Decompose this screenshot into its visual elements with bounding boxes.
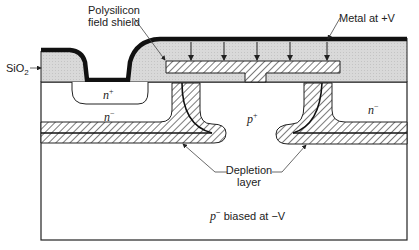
depletion-layer-label: Depletion layer [224,164,274,188]
p-plus-label: p+ [247,110,258,125]
p-plus-sup: + [253,111,258,120]
n-minus-left-sup: − [110,109,115,118]
substrate-bias-text: biased at −V [221,210,286,222]
n-plus-sup: + [109,87,114,96]
substrate-label: p− biased at −V [210,207,285,222]
sio2-subscript: 2 [24,68,28,77]
depletion-label-line2: layer [224,176,274,188]
polysilicon-label-line1: Polysilicon [88,4,140,16]
metal-label: Metal at +V [339,12,395,24]
depletion-label-line1: Depletion [224,164,274,176]
n-plus-label: n+ [103,86,114,101]
sio2-text: SiO [6,62,24,74]
polysilicon-shield-label: Polysilicon field shield [88,4,140,28]
n-minus-right-sup: − [374,102,379,111]
sio2-label: SiO2 [6,62,29,79]
n-minus-left-label: n− [104,108,115,123]
polysilicon-label-line2: field shield [88,16,140,28]
n-minus-right-label: n− [368,101,379,116]
